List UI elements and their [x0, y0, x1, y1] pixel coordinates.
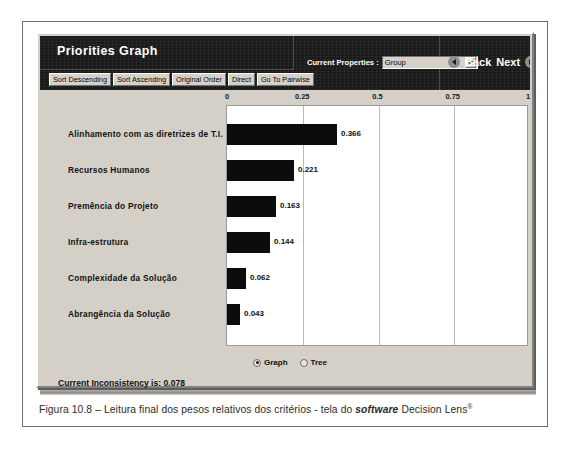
- application-window: Priorities Graph Sort Descending Sort As…: [36, 32, 534, 388]
- navigation-group: Back Next: [448, 56, 530, 68]
- bar-rows: Alinhamento com as diretrizes de T.I.0.3…: [40, 105, 530, 346]
- header-divider: [293, 36, 294, 70]
- bar[interactable]: [227, 304, 240, 325]
- bar[interactable]: [227, 160, 294, 181]
- direct-button[interactable]: Direct: [228, 73, 255, 86]
- sort-ascending-button[interactable]: Sort Ascending: [113, 73, 170, 86]
- caption-registered-mark: ®: [467, 403, 472, 410]
- original-order-button[interactable]: Original Order: [172, 73, 226, 86]
- radio-tree-label: Tree: [311, 358, 327, 367]
- figure-caption: Figura 10.8 – Leitura final dos pesos re…: [39, 403, 539, 415]
- bar-value-label: 0.144: [274, 237, 294, 246]
- header-underline: [40, 69, 293, 70]
- radio-tree[interactable]: Tree: [300, 358, 327, 367]
- bar-row: Recursos Humanos0.221: [40, 156, 530, 192]
- window-header-band: Priorities Graph Sort Descending Sort As…: [40, 36, 530, 90]
- bar[interactable]: [227, 196, 276, 217]
- bar[interactable]: [227, 124, 337, 145]
- caption-suffix: Decision Lens: [398, 404, 467, 415]
- x-axis-tick-label: 0.75: [445, 92, 460, 101]
- radio-graph[interactable]: Graph: [253, 358, 288, 367]
- view-mode-radio-group: Graph Tree: [253, 358, 327, 367]
- bar-value-label: 0.163: [280, 201, 300, 210]
- bar-category-label: Abrangência da Solução: [68, 309, 170, 319]
- bar-value-label: 0.221: [298, 165, 318, 174]
- next-button[interactable]: Next: [496, 56, 520, 68]
- current-properties-label: Current Properties :: [307, 58, 379, 67]
- page-title: Priorities Graph: [57, 44, 158, 58]
- bar-row: Abrangência da Solução0.043: [40, 300, 530, 336]
- sort-descending-button[interactable]: Sort Descending: [49, 73, 111, 86]
- window-shadow: [40, 390, 536, 395]
- x-axis-tick-label: 0.5: [372, 92, 382, 101]
- caption-italic: software: [355, 404, 398, 415]
- arrow-left-circle-icon[interactable]: [448, 56, 460, 68]
- bar-category-label: Infra-estrutura: [68, 237, 128, 247]
- caption-prefix: Figura 10.8 – Leitura final dos pesos re…: [39, 404, 355, 415]
- x-axis-tick-label: 0.25: [295, 92, 310, 101]
- back-button[interactable]: Back: [465, 56, 491, 68]
- bar-row: Complexidade da Solução0.062: [40, 264, 530, 300]
- bar-category-label: Premência do Projeto: [68, 201, 158, 211]
- x-axis-tick-label: 0: [225, 92, 229, 101]
- toolbar: Sort Descending Sort Ascending Original …: [49, 73, 314, 86]
- status-bar-inconsistency: Current Inconsistency is: 0.078: [58, 378, 185, 388]
- bar-category-label: Complexidade da Solução: [68, 273, 177, 283]
- bar[interactable]: [227, 268, 246, 289]
- bar[interactable]: [227, 232, 270, 253]
- bar-value-label: 0.062: [250, 273, 270, 282]
- bar-row: Alinhamento com as diretrizes de T.I.0.3…: [40, 120, 530, 156]
- bar-category-label: Recursos Humanos: [68, 165, 150, 175]
- x-axis-ticks: 00.250.50.751: [58, 92, 530, 106]
- bar-row: Premência do Projeto0.163: [40, 192, 530, 228]
- bar-value-label: 0.043: [244, 309, 264, 318]
- bar-value-label: 0.366: [341, 129, 361, 138]
- radio-graph-mark[interactable]: [253, 359, 261, 367]
- arrow-right-circle-icon[interactable]: [525, 56, 530, 68]
- go-to-pairwise-button[interactable]: Go To Pairwise: [257, 73, 314, 86]
- bar-category-label: Alinhamento com as diretrizes de T.I.: [68, 129, 223, 139]
- radio-tree-mark[interactable]: [300, 359, 308, 367]
- radio-graph-label: Graph: [264, 358, 288, 367]
- chart-body: 00.250.50.751 Alinhamento com as diretri…: [40, 90, 530, 386]
- figure-frame: Priorities Graph Sort Descending Sort As…: [22, 21, 548, 427]
- x-axis-tick-label: 1: [526, 92, 530, 101]
- bar-row: Infra-estrutura0.144: [40, 228, 530, 264]
